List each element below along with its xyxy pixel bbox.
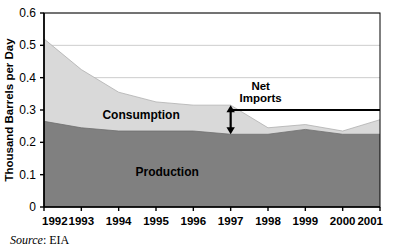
net-imports-label-line2: Imports [240, 92, 282, 104]
production-area [44, 121, 380, 207]
y-tick-label: 0.2 [19, 135, 36, 149]
chart-figure: 00.10.20.30.40.50.6 19921993199419951996… [0, 0, 396, 251]
area-chart: 00.10.20.30.40.50.6 19921993199419951996… [0, 0, 396, 251]
y-axis-ticks: 00.10.20.30.40.50.6 [19, 6, 44, 214]
source-note: Source: EIA [10, 233, 69, 248]
x-tick-label: 1992 [42, 215, 68, 227]
y-tick-label: 0.4 [19, 71, 36, 85]
source-value: EIA [49, 233, 69, 247]
y-tick-label: 0.3 [19, 103, 36, 117]
production-series-label: Production [136, 165, 199, 179]
consumption-series-label: Consumption [102, 108, 179, 122]
x-tick-label: 1997 [218, 215, 244, 227]
x-tick-label: 1996 [181, 215, 207, 227]
y-tick-label: 0.1 [19, 168, 36, 182]
y-tick-label: 0.5 [19, 38, 36, 52]
x-tick-label: 1993 [69, 215, 95, 227]
x-tick-label: 2000 [330, 215, 356, 227]
x-tick-label: 1994 [106, 215, 132, 227]
x-axis-ticks: 1992199319941995199619971998199920002001 [42, 207, 384, 227]
x-tick-label: 1998 [255, 215, 281, 227]
x-tick-label: 1999 [293, 215, 319, 227]
x-tick-label: 2001 [357, 215, 383, 227]
y-axis-title: Thousand Barrels per Day [3, 38, 15, 182]
y-tick-label: 0.6 [19, 6, 36, 20]
net-imports-label-line1: Net [251, 80, 270, 92]
y-tick-label: 0 [29, 200, 36, 214]
source-prefix: Source [10, 233, 43, 247]
x-tick-label: 1995 [143, 215, 169, 227]
